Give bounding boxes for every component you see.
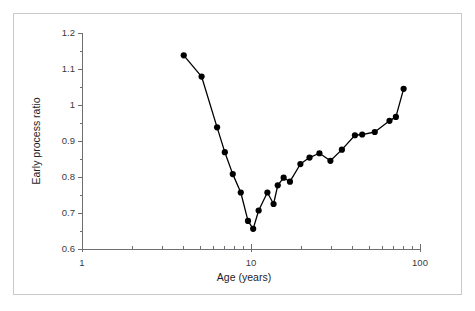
y-axis-title: Early process ratio xyxy=(30,97,42,184)
y-tick-label: 0.9 xyxy=(62,135,75,146)
data-point-marker xyxy=(359,131,365,137)
x-tick-label: 1 xyxy=(79,257,84,268)
data-point-marker xyxy=(198,73,204,79)
data-point-marker xyxy=(270,201,276,207)
y-tick-label: 1 xyxy=(70,99,75,110)
data-point-marker xyxy=(230,171,236,177)
data-point-marker xyxy=(386,118,392,124)
y-tick-label: 0.7 xyxy=(62,207,75,218)
x-tick-label: 100 xyxy=(412,257,428,268)
data-point-marker xyxy=(316,150,322,156)
data-point-marker xyxy=(256,207,262,213)
x-axis: 110100 xyxy=(79,244,428,268)
y-tick-label: 1.1 xyxy=(62,63,75,74)
series-line xyxy=(184,55,404,229)
data-series xyxy=(181,52,407,232)
chart-canvas: 0.60.70.80.911.11.2 110100 Age (years) E… xyxy=(0,0,475,311)
y-tick-label: 0.6 xyxy=(62,243,75,254)
data-point-marker xyxy=(327,158,333,164)
x-axis-title: Age (years) xyxy=(217,271,271,283)
data-point-marker xyxy=(297,161,303,167)
y-tick-label: 1.2 xyxy=(62,27,75,38)
data-point-marker xyxy=(352,132,358,138)
data-point-marker xyxy=(275,182,281,188)
data-point-marker xyxy=(264,189,270,195)
data-point-marker xyxy=(250,226,256,232)
data-point-marker xyxy=(339,147,345,153)
data-point-marker xyxy=(393,114,399,120)
data-point-marker xyxy=(245,218,251,224)
data-point-marker xyxy=(306,154,312,160)
data-point-marker xyxy=(181,52,187,58)
y-axis: 0.60.70.80.911.11.2 xyxy=(62,27,82,254)
data-point-marker xyxy=(222,149,228,155)
y-tick-label: 0.8 xyxy=(62,171,75,182)
data-point-marker xyxy=(287,179,293,185)
data-point-marker xyxy=(238,189,244,195)
x-tick-label: 10 xyxy=(246,257,257,268)
data-point-marker xyxy=(401,86,407,92)
data-point-marker xyxy=(281,175,287,181)
figure-root: 0.60.70.80.911.11.2 110100 Age (years) E… xyxy=(0,0,475,311)
data-point-marker xyxy=(372,129,378,135)
data-point-marker xyxy=(214,124,220,130)
